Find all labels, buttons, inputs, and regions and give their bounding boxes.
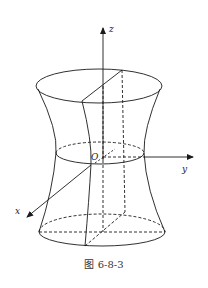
- bottom-dashed-diagonal: [85, 212, 125, 246]
- origin-label: O: [91, 152, 99, 162]
- back-dashed-line-2: [122, 70, 125, 212]
- front-ruling: [82, 101, 91, 246]
- bottom-ellipse-back: [39, 214, 165, 232]
- figure-caption: 图 6-8-3: [0, 256, 208, 271]
- z-axis-label: z: [108, 24, 114, 34]
- hyperboloid-diagram: z y x O: [0, 0, 208, 288]
- x-axis-label: x: [15, 206, 20, 216]
- waist-ellipse-back: [56, 142, 144, 153]
- left-profile: [38, 89, 56, 232]
- waist-ellipse-front: [56, 153, 144, 164]
- right-profile: [144, 89, 165, 232]
- top-chord: [82, 70, 122, 101]
- y-axis-label: y: [181, 164, 188, 174]
- bottom-ellipse-front: [39, 232, 165, 246]
- x-axis: [27, 165, 91, 217]
- top-ellipse: [36, 69, 162, 103]
